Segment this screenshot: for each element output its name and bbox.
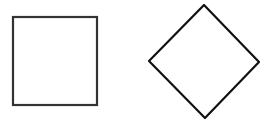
diamond-shape xyxy=(149,5,259,118)
square-shape xyxy=(13,17,97,105)
diagram-canvas xyxy=(0,0,270,130)
